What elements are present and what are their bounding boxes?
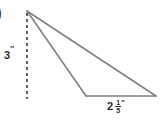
height-inch-mark: ″ xyxy=(10,44,14,53)
base-inch-mark: ″ xyxy=(121,99,124,106)
triangle-diagram-svg xyxy=(0,0,162,122)
base-whole-number: 2 xyxy=(107,101,113,112)
fraction-denominator: 5 xyxy=(115,107,121,114)
triangle-side-left xyxy=(27,11,86,96)
geometry-figure: ) 3″ 215″ xyxy=(0,0,162,122)
triangle-side-hypotenuse xyxy=(27,11,156,96)
height-measurement-label: 3″ xyxy=(4,48,14,61)
base-measurement-label: 215″ xyxy=(107,99,124,114)
